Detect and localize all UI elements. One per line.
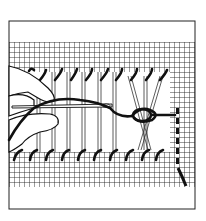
needlework-illustration [0,0,206,221]
illustration-svg [0,0,206,221]
